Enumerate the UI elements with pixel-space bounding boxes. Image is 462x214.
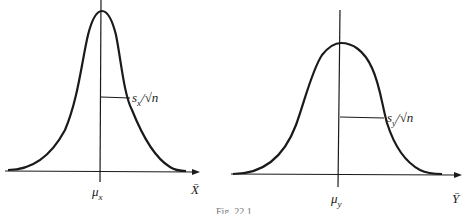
right-axis-label: Ȳ <box>452 192 459 205</box>
left-x-axis-arrow-icon <box>192 169 200 175</box>
left-mean-label: μx <box>92 185 103 202</box>
left-mu-sub: x <box>99 192 103 202</box>
right-se-bracket <box>340 117 384 118</box>
right-mean-line <box>338 10 340 187</box>
left-normal-curve <box>8 11 186 171</box>
right-normal-curve <box>233 43 442 174</box>
figure-canvas <box>0 0 462 214</box>
left-mean-line <box>100 0 101 182</box>
right-panel <box>231 10 462 187</box>
right-se-label: sy/√n <box>387 111 413 128</box>
right-x-axis <box>231 174 455 175</box>
right-mean-label: μy <box>331 192 342 209</box>
figure-caption: Fig. 22.1 <box>216 207 252 214</box>
left-panel <box>5 0 200 182</box>
right-se-rest: /√n <box>396 110 413 125</box>
left-axis-label: X̄ <box>191 183 199 196</box>
left-se-rest: /√n <box>141 90 158 105</box>
right-mu-sub: y <box>338 199 342 209</box>
left-se-bracket <box>101 97 130 98</box>
right-x-axis-arrow-icon <box>454 172 462 178</box>
left-se-label: sx/√n <box>132 91 158 108</box>
